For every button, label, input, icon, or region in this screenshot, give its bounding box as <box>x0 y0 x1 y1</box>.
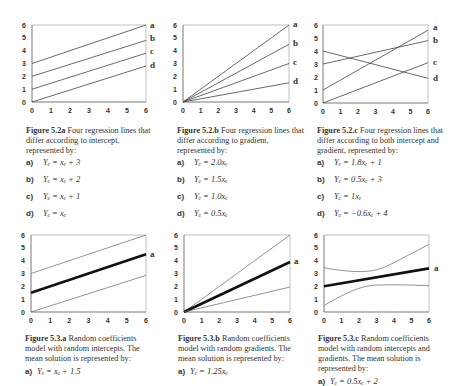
series-label-d: d <box>433 73 438 83</box>
svg-text:6: 6 <box>173 22 177 29</box>
y-axis: 0 1 2 3 4 5 6 <box>173 22 183 106</box>
figure-caption: Figure 5.2a Four regression lines that d… <box>26 126 152 156</box>
svg-text:0: 0 <box>30 107 34 114</box>
equation-a: a)Yₑ = 2.0xₑ <box>177 157 228 167</box>
svg-text:6: 6 <box>287 107 291 114</box>
svg-text:4: 4 <box>106 107 110 114</box>
svg-text:3: 3 <box>21 270 25 277</box>
svg-text:2: 2 <box>217 317 221 324</box>
svg-text:0: 0 <box>314 309 318 316</box>
svg-text:2: 2 <box>173 73 177 80</box>
svg-text:5: 5 <box>21 244 25 251</box>
chart-5-2a: 0 1 2 3 4 5 6 0 1 2 3 4 5 6 a b c <box>0 0 160 120</box>
x-axis: 0 1 2 3 4 5 6 <box>322 235 431 324</box>
equation-d: d)Yₑ = −0.6xₑ + 4 <box>317 208 388 218</box>
svg-text:4: 4 <box>22 47 26 54</box>
y-axis: 0 1 2 3 4 5 6 <box>174 232 184 316</box>
figure-caption: Figure 5.2.c Four regression lines that … <box>317 126 459 156</box>
svg-text:3: 3 <box>314 270 318 277</box>
svg-text:5: 5 <box>173 34 177 41</box>
chart-5-2c: 0 1 2 3 4 5 6 0 1 2 3 4 5 6 a b c <box>300 0 460 120</box>
svg-text:3: 3 <box>375 317 379 324</box>
svg-text:6: 6 <box>426 108 430 115</box>
svg-text:2: 2 <box>174 283 178 290</box>
equation-a: a)Yₑ = 1.25xₑ <box>178 366 228 376</box>
figure-5-3a: 0 1 2 3 4 5 6 0 1 2 3 4 5 6 a Figure 5.3… <box>0 225 150 386</box>
series-label-b: b <box>433 35 438 45</box>
svg-text:5: 5 <box>125 107 129 114</box>
series-lines <box>324 244 429 305</box>
x-axis: 0 1 2 3 4 5 6 <box>181 25 291 114</box>
svg-text:4: 4 <box>314 257 318 264</box>
svg-text:3: 3 <box>174 270 178 277</box>
figure-5-2c: 0 1 2 3 4 5 6 0 1 2 3 4 5 6 a b c <box>300 0 460 225</box>
svg-text:4: 4 <box>314 48 318 55</box>
svg-text:3: 3 <box>87 107 91 114</box>
equation-b: b)Yₑ = 0.5xₑ + 3 <box>317 174 382 184</box>
svg-text:5: 5 <box>269 107 273 114</box>
svg-text:4: 4 <box>392 317 396 324</box>
svg-text:6: 6 <box>22 22 26 29</box>
x-axis: 0 1 2 3 4 5 6 <box>182 235 292 324</box>
svg-text:0: 0 <box>29 317 33 324</box>
svg-text:2: 2 <box>22 73 26 80</box>
svg-text:4: 4 <box>106 317 110 324</box>
series-lines <box>323 30 428 103</box>
svg-text:4: 4 <box>253 317 257 324</box>
equation-b: b)Yₑ = xₑ + 2 <box>26 174 80 184</box>
svg-text:2: 2 <box>314 74 318 81</box>
equation-c: c)Yₑ = xₑ + 1 <box>26 191 80 201</box>
svg-text:1: 1 <box>21 296 25 303</box>
svg-text:5: 5 <box>270 317 274 324</box>
figure-5-3b: 0 1 2 3 4 5 6 0 1 2 3 4 5 6 a Figure 5.3… <box>150 225 300 386</box>
equation-a: a)Yₑ = xₑ + 3 <box>26 157 80 167</box>
equation-a: a)Yₑ = xₑ + 1.5 <box>25 366 81 376</box>
svg-text:4: 4 <box>391 108 395 115</box>
series-lines <box>31 235 146 312</box>
svg-text:2: 2 <box>216 107 220 114</box>
chart-5-3c: 0 1 2 3 4 5 6 0 1 2 3 4 5 6 a <box>300 225 460 335</box>
svg-text:6: 6 <box>314 232 318 239</box>
figure-caption: Figure 5.2.b Four regression lines that … <box>177 126 305 156</box>
svg-text:3: 3 <box>314 61 318 68</box>
equation-b: b)Yₑ = 1.5xₑ <box>177 174 228 184</box>
figure-caption: Figure 5.3.a Random coefficients model w… <box>25 334 153 364</box>
series-label-c: c <box>293 57 297 67</box>
svg-text:6: 6 <box>174 232 178 239</box>
svg-text:6: 6 <box>427 317 431 324</box>
svg-text:1: 1 <box>314 87 318 94</box>
svg-text:5: 5 <box>125 317 129 324</box>
svg-text:3: 3 <box>173 60 177 67</box>
series-label-a: a <box>294 256 299 266</box>
svg-text:1: 1 <box>174 296 178 303</box>
equation-d: d)Yₑ = xₑ <box>26 208 66 218</box>
equation-c: c)Yₑ = 1.0xₑ <box>177 191 228 201</box>
svg-text:0: 0 <box>321 108 325 115</box>
equation-d: d)Yₑ = 0.5xₑ <box>177 208 228 218</box>
series-label-a: a <box>434 263 439 273</box>
equation-c: c)Yₑ = 1xₑ <box>317 191 361 201</box>
svg-text:2: 2 <box>356 108 360 115</box>
svg-text:5: 5 <box>314 35 318 42</box>
y-axis: 0 1 2 3 4 5 6 <box>21 232 31 316</box>
svg-text:0: 0 <box>21 309 25 316</box>
svg-text:5: 5 <box>409 108 413 115</box>
svg-text:2: 2 <box>314 283 318 290</box>
svg-text:1: 1 <box>49 107 53 114</box>
svg-text:1: 1 <box>339 108 343 115</box>
svg-text:5: 5 <box>22 34 26 41</box>
y-axis: 0 1 2 3 4 5 6 <box>22 22 32 106</box>
series-lines <box>183 25 289 102</box>
chart-5-3b: 0 1 2 3 4 5 6 0 1 2 3 4 5 6 a <box>150 225 310 335</box>
svg-text:3: 3 <box>374 108 378 115</box>
svg-text:6: 6 <box>314 22 318 29</box>
svg-text:1: 1 <box>173 86 177 93</box>
svg-text:0: 0 <box>182 317 186 324</box>
svg-text:5: 5 <box>314 244 318 251</box>
series-label-a: a <box>433 22 438 32</box>
equation-a: a)Yₑ = 0.5xₑ + 2 <box>318 376 378 386</box>
series-label-d: d <box>293 76 298 86</box>
chart-5-2b: 0 1 2 3 4 5 6 0 1 2 3 4 5 6 a b c <box>150 0 310 120</box>
y-axis: 0 1 2 3 4 5 6 <box>314 232 324 316</box>
svg-text:5: 5 <box>410 317 414 324</box>
